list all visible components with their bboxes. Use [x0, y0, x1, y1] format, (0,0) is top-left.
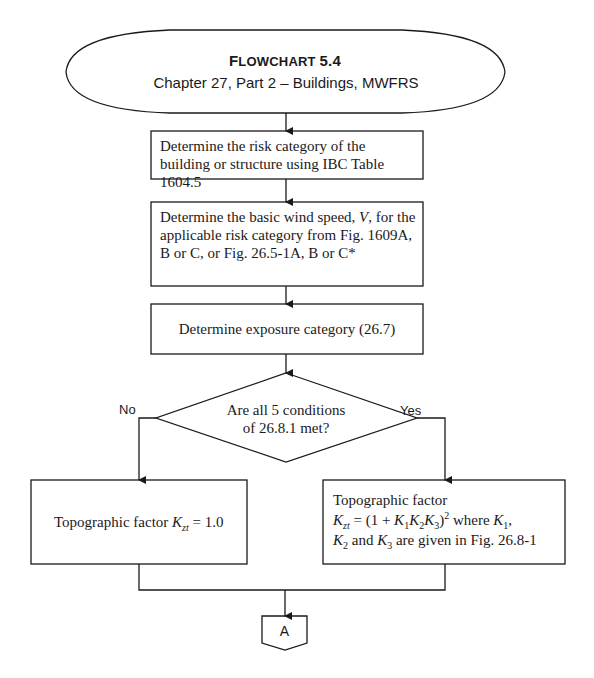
yes-result-label: Topographic factor [333, 490, 565, 510]
f-where: where [449, 512, 493, 528]
l2-and: and [348, 532, 377, 548]
f-wk: K [493, 512, 503, 528]
decision-line-2: of 26.8.1 met? [186, 419, 386, 437]
kzt-var: K [172, 514, 182, 530]
step-3-text: Determine exposure category (26.7) [151, 320, 423, 338]
kzt-value: = 1.0 [193, 514, 224, 530]
merge-line-left [139, 564, 445, 590]
terminal-shape [66, 30, 505, 113]
flowchart-canvas [0, 0, 594, 678]
title-initial: F [229, 52, 238, 69]
decision-line-1: Are all 5 conditions [186, 401, 386, 419]
f-k: K [333, 512, 343, 528]
f-k3: K [424, 512, 434, 528]
connector-label: A [262, 623, 307, 639]
l2-k2: K [333, 532, 343, 548]
f-k1: K [394, 512, 404, 528]
flowchart-subtitle: Chapter 27, Part 2 – Buildings, MWFRS [100, 74, 472, 91]
yes-result-text: Topographic factor Kzt = (1 + K1K2K3)2 w… [333, 490, 565, 550]
flowchart-title: FLOWCHART 5.4 [120, 52, 450, 69]
kzt-formula-line2: K2 and K3 are given in Fig. 26.8-1 [333, 530, 565, 550]
f-k2: K [409, 512, 419, 528]
kzt-sub: zt [182, 522, 189, 533]
f-eq: = (1 + [350, 512, 394, 528]
no-result-text: Topographic factor Kzt = 1.0 [54, 513, 244, 531]
kzt-formula: Kzt = (1 + K1K2K3)2 where K1, [333, 510, 565, 530]
title-number: 5.4 [320, 52, 341, 69]
step-1-text: Determine the risk category of the build… [160, 137, 418, 191]
l2-k3: K [377, 532, 387, 548]
no-label: No [119, 402, 136, 417]
yes-branch-line [417, 418, 445, 480]
decision-text: Are all 5 conditions of 26.8.1 met? [186, 401, 386, 437]
yes-label: Yes [400, 403, 421, 418]
l2-rest: are given in Fig. 26.8-1 [392, 532, 537, 548]
step-2-text-a: Determine the basic wind speed, [160, 209, 359, 225]
no-result-label: Topographic factor [54, 514, 168, 530]
wind-speed-var: V [359, 209, 368, 225]
no-branch-line [139, 418, 156, 480]
f-comma: , [508, 512, 512, 528]
step-2-text: Determine the basic wind speed, V, for t… [160, 208, 420, 262]
title-rest: LOWCHART [238, 54, 315, 69]
